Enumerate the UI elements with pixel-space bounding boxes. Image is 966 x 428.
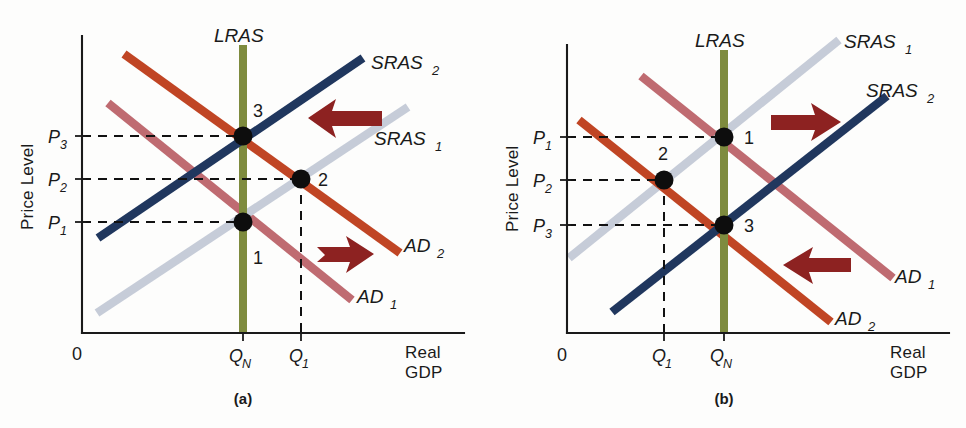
panel-caption-a: (a) (234, 390, 252, 407)
curve-sras2-panel-a (98, 58, 363, 238)
curve-label-sras1-panel-a: SRAS 1 (374, 128, 442, 154)
y-tick-label-p2-base: P (48, 170, 60, 190)
curve-label-ad1-panel-b: AD 1 (894, 266, 935, 292)
curve-label-lras-panel-a: LRAS (214, 25, 264, 46)
curve-label-ad1-base: AD (356, 286, 384, 307)
equilibrium-point-3-dot-panel-b (715, 216, 734, 235)
curve-label-ad2-base: AD (403, 235, 431, 256)
y-axis-title-panel-b: Price Level (503, 146, 522, 232)
y-tick-label-p3-panel-a: P 3 (48, 127, 67, 152)
curve-label-sras1-panel-b: SRAS 1 (844, 31, 912, 57)
x-axis-title-line1-panel-b: Real (890, 343, 926, 362)
x-tick-label-q1-sub: 1 (302, 357, 309, 371)
curve-label-sras2-sub: 2 (926, 91, 935, 106)
arrow-left-ad-shift-panel-b (783, 247, 851, 284)
curve-label-ad2-sub: 2 (867, 319, 876, 334)
equilibrium-point-1-dot-panel-b (715, 128, 734, 147)
y-tick-label-p2-sub: 2 (59, 181, 67, 195)
curve-label-ad2-sub: 2 (436, 246, 445, 261)
panel-a: Price Level Real GDP 0 P 3 P 2 P 1 Q N Q… (0, 0, 483, 428)
equilibrium-label-2-panel-b: 2 (658, 144, 668, 164)
equilibrium-label-1-panel-a: 1 (253, 248, 263, 268)
y-axis-title-panel-a: Price Level (18, 144, 37, 230)
panel-caption-b: (b) (714, 390, 733, 407)
y-tick-label-p3-sub: 3 (545, 227, 552, 241)
y-tick-label-p2-base: P (533, 171, 545, 191)
curve-label-sras2-panel-a: SRAS 2 (371, 52, 440, 78)
curve-label-sras2-sub: 2 (431, 63, 440, 78)
curve-label-ad1-sub: 1 (928, 277, 935, 292)
x-tick-label-q1-panel-b: Q 1 (652, 346, 672, 371)
y-tick-label-p2-sub: 2 (544, 182, 552, 196)
equilibrium-label-3-panel-b: 3 (744, 216, 754, 236)
curve-label-ad2-panel-a: AD 2 (403, 235, 445, 261)
y-tick-label-p2-panel-b: P 2 (533, 171, 552, 196)
curve-label-ad2-panel-b: AD 2 (834, 308, 876, 334)
y-tick-label-p3-sub: 3 (60, 138, 67, 152)
curve-label-sras1-base: SRAS (374, 128, 426, 149)
y-tick-label-p3-base: P (533, 216, 545, 236)
curve-label-sras1-base: SRAS (844, 31, 896, 52)
panel-b: Price Level Real GDP 0 P 1 P 2 P 3 Q 1 Q… (483, 0, 966, 428)
curve-label-ad2-base: AD (834, 308, 862, 329)
x-tick-label-qn-panel-b: Q N (710, 346, 733, 371)
curve-label-sras1-sub: 1 (905, 42, 912, 57)
y-tick-label-p1-panel-b: P 1 (533, 128, 552, 153)
x-tick-label-q1-base: Q (652, 346, 666, 366)
curve-label-sras2-base: SRAS (371, 52, 423, 73)
arrow-right-ad-shift-panel-a (317, 236, 374, 273)
x-tick-label-q1-sub: 1 (665, 357, 672, 371)
equilibrium-label-1-panel-b: 1 (744, 128, 754, 148)
figure-container: Price Level Real GDP 0 P 3 P 2 P 1 Q N Q… (0, 0, 966, 428)
x-axis-title-line2-panel-b: GDP (890, 363, 927, 382)
equilibrium-point-2-dot-panel-a (292, 170, 311, 189)
x-axis-title-line1-panel-a: Real (405, 343, 441, 362)
equilibrium-point-1-dot-panel-a (234, 213, 253, 232)
x-tick-label-qn-base: Q (229, 346, 243, 366)
equilibrium-point-3-dot-panel-a (234, 127, 253, 146)
x-tick-label-qn-base: Q (710, 346, 724, 366)
y-tick-label-p3-base: P (48, 127, 60, 147)
y-tick-label-p2-panel-a: P 2 (48, 170, 67, 195)
y-tick-label-p1-panel-a: P 1 (48, 213, 67, 238)
curve-label-sras2-base: SRAS (866, 80, 918, 101)
y-tick-label-p1-sub: 1 (60, 224, 67, 238)
equilibrium-label-3-panel-a: 3 (253, 101, 263, 121)
curve-label-ad1-sub: 1 (390, 297, 397, 312)
equilibrium-label-2-panel-a: 2 (318, 170, 328, 190)
curve-label-lras-panel-b: LRAS (695, 30, 745, 51)
x-tick-label-qn-panel-a: Q N (229, 346, 252, 371)
x-tick-label-qn-sub: N (723, 357, 733, 371)
curve-label-ad1-panel-a: AD 1 (356, 286, 397, 312)
x-axis-title-line2-panel-a: GDP (405, 363, 442, 382)
y-tick-label-p1-sub: 1 (545, 139, 552, 153)
equilibrium-point-2-dot-panel-b (655, 171, 674, 190)
origin-label-panel-a: 0 (72, 344, 82, 364)
x-tick-label-q1-base: Q (289, 346, 303, 366)
y-tick-label-p1-base: P (533, 128, 545, 148)
curve-ad1-panel-b (641, 76, 893, 278)
y-tick-label-p1-base: P (48, 213, 60, 233)
x-tick-label-qn-sub: N (242, 357, 252, 371)
curve-label-ad1-base: AD (894, 266, 922, 287)
y-tick-label-p3-panel-b: P 3 (533, 216, 552, 241)
origin-label-panel-b: 0 (557, 345, 567, 365)
x-tick-label-q1-panel-a: Q 1 (289, 346, 309, 371)
curve-label-sras1-sub: 1 (435, 139, 442, 154)
